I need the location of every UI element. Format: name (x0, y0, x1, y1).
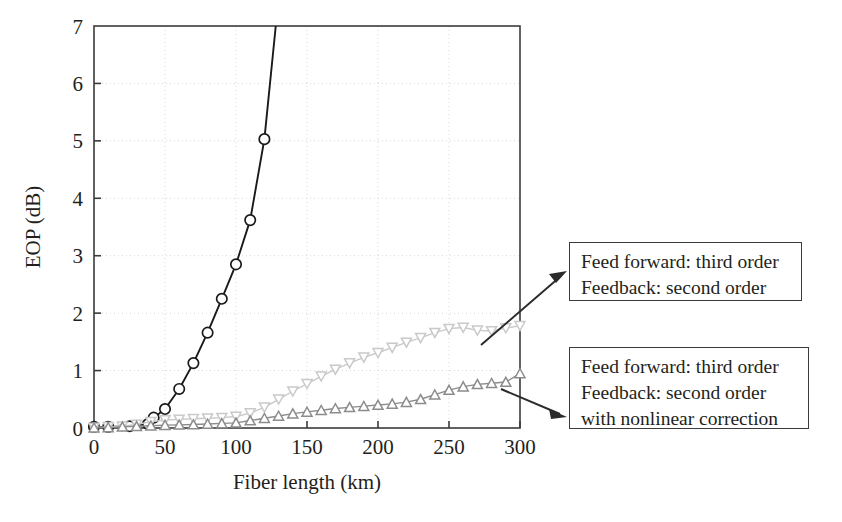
data-point-marker (330, 365, 340, 374)
data-point-marker (202, 327, 212, 337)
y-tick-label: 3 (73, 244, 84, 268)
data-point-marker (430, 328, 440, 337)
data-point-marker (259, 403, 269, 412)
x-tick-label: 200 (362, 435, 394, 459)
x-tick-labels: 050100150200250300 (89, 435, 536, 459)
data-point-marker (373, 349, 383, 358)
gridlines (94, 26, 520, 428)
data-point-marker (231, 259, 241, 269)
y-tick-label: 6 (73, 72, 84, 96)
y-tick-label: 1 (73, 359, 84, 383)
data-point-marker (302, 380, 312, 389)
callout-arrow-2 (501, 389, 567, 419)
y-tick-label: 4 (73, 187, 84, 211)
callout-2-line-3: with nonlinear correction (581, 406, 799, 432)
data-point-marker (430, 390, 440, 399)
callout-2-line-1: Feed forward: third order (581, 354, 799, 380)
data-point-marker (416, 395, 426, 404)
callout-arrows (481, 271, 567, 419)
x-axis-title: Fiber length (km) (233, 470, 381, 494)
data-point-marker (245, 215, 255, 225)
series-uncompensated (89, 26, 276, 432)
y-tick-label: 0 (73, 417, 84, 441)
data-point-marker (316, 372, 326, 381)
x-tick-label: 300 (504, 435, 536, 459)
data-point-marker (387, 343, 397, 352)
y-tick-labels: 01234567 (73, 15, 84, 441)
x-tick-label: 50 (155, 435, 176, 459)
data-point-marker (288, 387, 298, 396)
data-point-marker (259, 134, 269, 144)
data-point-marker (359, 353, 369, 362)
data-point-marker (217, 294, 227, 304)
data-point-marker (174, 384, 184, 394)
data-point-marker (416, 334, 426, 343)
y-tick-label: 7 (73, 15, 84, 39)
data-point-marker (160, 404, 170, 414)
callout-box-feedforward-feedback: Feed forward: third order Feedback: seco… (569, 242, 802, 301)
chart-figure: 050100150200250300 01234567 Fiber length… (0, 0, 842, 522)
x-tick-label: 250 (433, 435, 465, 459)
data-point-marker (515, 369, 525, 378)
x-tick-label: 0 (89, 435, 100, 459)
data-point-marker (401, 338, 411, 347)
callout-2-line-2: Feedback: second order (581, 380, 799, 406)
data-point-marker (188, 358, 198, 368)
callout-arrow-1 (481, 271, 567, 345)
series-line (94, 26, 276, 427)
data-point-marker (345, 359, 355, 368)
x-tick-label: 100 (220, 435, 252, 459)
x-tick-label: 150 (291, 435, 323, 459)
y-axis-title: EOP (dB) (21, 186, 45, 269)
y-tick-label: 5 (73, 129, 84, 153)
callout-1-line-2: Feedback: second order (581, 275, 792, 301)
data-point-marker (274, 395, 284, 404)
callout-1-line-1: Feed forward: third order (581, 249, 792, 275)
y-tick-label: 2 (73, 302, 84, 326)
callout-box-feedforward-feedback-nonlinear: Feed forward: third order Feedback: seco… (569, 347, 809, 429)
